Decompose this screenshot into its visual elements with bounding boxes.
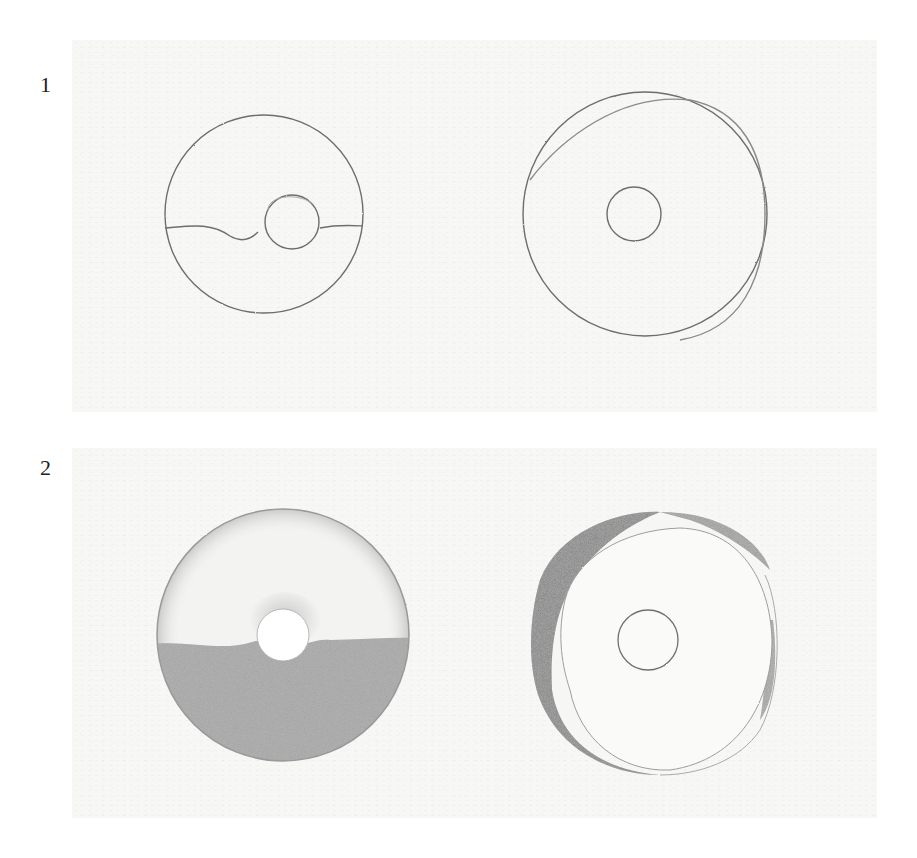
drawings-canvas: [0, 0, 917, 858]
donut-rim-shaded-drawing: [531, 512, 783, 775]
donut-outline-offset-rim-drawing: [523, 92, 767, 340]
donut-outline-glaze-line-drawing: [165, 115, 363, 313]
donut-half-shaded-drawing: [150, 509, 420, 780]
